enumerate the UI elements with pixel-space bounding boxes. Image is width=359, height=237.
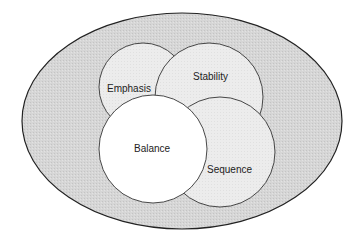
- sequence-label: Sequence: [207, 164, 252, 175]
- balance-label: Balance: [134, 143, 171, 154]
- emphasis-label: Emphasis: [107, 83, 151, 94]
- stability-label: Stability: [193, 71, 228, 82]
- venn-diagram: Emphasis Stability Sequence Balance: [0, 0, 359, 237]
